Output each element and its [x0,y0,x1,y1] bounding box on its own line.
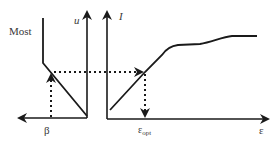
most-label: Most [9,26,32,37]
epsilon-opt-sub: opt [142,129,151,137]
epsilon-opt-label: εopt [138,125,151,137]
beta-axis-label: β [44,125,50,136]
i-axis-label: I [119,11,123,22]
epsilon-axis-label: ε [259,125,264,136]
u-axis-label: u [74,15,80,26]
u-beta-curve [43,18,87,116]
i-epsilon-curve [110,36,257,110]
diagram-canvas: Most u I β εopt ε [0,0,279,142]
diagram-graphics [0,0,279,142]
